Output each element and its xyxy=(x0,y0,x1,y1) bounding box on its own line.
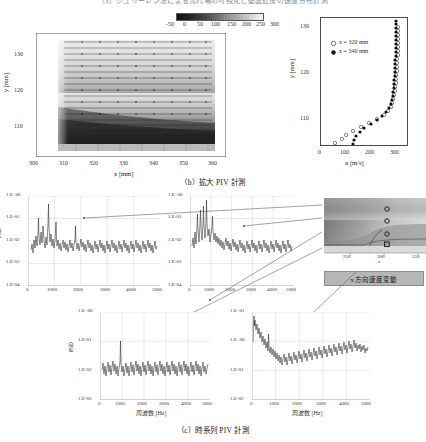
profile-xlabel: u [m/s] xyxy=(345,159,364,166)
piv-xtick: 300 xyxy=(29,160,38,166)
schlieren-photo-canvas xyxy=(324,198,426,264)
psd-xtick: 3000 xyxy=(159,401,169,406)
velocity-profile-plot: x = 320 mm x = 340 mm 130 120 110 0 100 … xyxy=(320,17,408,146)
psd-top-left-canvas xyxy=(28,196,160,286)
psd-xtick: 1000 xyxy=(269,401,279,406)
psd-ytick: 1.E-02 xyxy=(6,237,19,242)
schlieren-photo: 250 300 350 x xyxy=(324,198,426,264)
psd-xtick: 4000 xyxy=(181,401,191,406)
profile-ytick: 110 xyxy=(300,115,309,121)
psd-ytick: 1.E+00 xyxy=(168,192,183,197)
psd-xtick: 5000 xyxy=(152,287,162,292)
piv-ylabel: y [mm] xyxy=(2,73,9,92)
psd-bottom-right-canvas xyxy=(252,312,370,400)
profile-legend: x = 320 mm x = 340 mm xyxy=(330,39,392,59)
psd-xtick: 3000 xyxy=(316,401,326,406)
psd-xlabel: 周波数 [Hz] xyxy=(292,408,323,417)
psd-xtick: 2000 xyxy=(137,401,147,406)
photo-xtick: 250 xyxy=(343,254,351,259)
psd-ytick: 1.E+00 xyxy=(230,337,245,342)
legend-label-1: x = 320 mm xyxy=(339,39,368,45)
figure-root: （a）シュリーレン法による流れ場の可視化と壁面近傍の速度分布計測 -50 0 5… xyxy=(0,0,426,442)
psd-top-right: 1.E+00 1.E-01 1.E-02 1.E-03 1.E-04 0 100… xyxy=(190,196,294,286)
psd-xtick: 3000 xyxy=(100,287,110,292)
profile-ytick: 120 xyxy=(300,69,309,75)
psd-bottom-left: 1.E+00 1.E-01 1.E-02 1.E-03 0 1000 2000 … xyxy=(100,312,210,400)
psd-ylabel: PSD xyxy=(0,228,2,238)
legend-filled-circle-icon xyxy=(330,49,337,56)
colorbar-tick: 250 xyxy=(256,21,265,27)
colorbar-tick: 300 xyxy=(270,21,279,27)
psd-ytick: 1.E-03 xyxy=(6,259,19,264)
psd-ytick: 1.E-03 xyxy=(168,259,181,264)
piv-ytick: 130 xyxy=(14,51,23,57)
psd-xlabel: 周波数 [Hz] xyxy=(136,408,167,417)
profile-points xyxy=(320,17,408,146)
psd-xtick: 0 xyxy=(26,287,29,292)
psd-ytick: 1.E-02 xyxy=(168,237,181,242)
colorbar-tick: -50 xyxy=(166,21,174,27)
psd-ytick: 1.E-01 xyxy=(168,214,181,219)
legend-open-circle-icon xyxy=(330,40,337,47)
psd-ytick: 1.E-01 xyxy=(230,367,243,372)
colorbar-tick: 50 xyxy=(197,21,203,27)
psd-ytick: 1.E-04 xyxy=(6,282,19,287)
psd-ytick: 1.E-03 xyxy=(78,396,91,401)
psd-top-right-canvas xyxy=(190,196,294,286)
psd-top-left: 1.E+00 1.E-01 1.E-02 1.E-03 1.E-04 0 100… xyxy=(28,196,160,286)
psd-xtick: 1000 xyxy=(204,287,214,292)
psd-ytick: 1.E-01 xyxy=(78,337,91,342)
psd-xtick: 0 xyxy=(250,401,253,406)
annotation-box-label: x 方向速度変動 xyxy=(351,274,398,284)
piv-xtick: 360 xyxy=(208,160,217,166)
piv-ytick: 120 xyxy=(14,87,23,93)
psd-ytick: 1.E+00 xyxy=(6,192,21,197)
psd-xtick: 1000 xyxy=(47,287,57,292)
psd-xtick: 5000 xyxy=(286,287,296,292)
psd-xtick: 1000 xyxy=(115,401,125,406)
psd-ytick: 1.E+00 xyxy=(78,308,93,313)
profile-xtick: 0 xyxy=(318,149,321,155)
psd-xtick: 0 xyxy=(188,287,191,292)
colorbar-tick: 100 xyxy=(211,21,220,27)
caption-b: （b）拡大 PIV 計測 xyxy=(0,176,426,187)
psd-xtick: 3000 xyxy=(246,287,256,292)
psd-xtick: 4000 xyxy=(267,287,277,292)
psd-xtick: 2000 xyxy=(225,287,235,292)
colorbar-ticklabels: -50 0 50 100 150 200 250 300 xyxy=(166,21,278,31)
piv-xtick: 310 xyxy=(59,160,68,166)
psd-xtick: 0 xyxy=(98,401,101,406)
psd-xtick: 2000 xyxy=(292,401,302,406)
profile-ylabel: y [mm] xyxy=(288,59,295,78)
piv-ytick: 110 xyxy=(14,123,23,129)
psd-xtick: 4000 xyxy=(126,287,136,292)
annotation-box: x 方向速度変動 xyxy=(324,271,424,286)
photo-xlabel: x xyxy=(378,259,380,264)
psd-xtick: 2000 xyxy=(73,287,83,292)
caption-c: （c）時系列 PIV 計測 xyxy=(0,423,426,435)
legend-label-2: x = 340 mm xyxy=(339,48,368,54)
top-caption-clipped: （a）シュリーレン法による流れ場の可視化と壁面近傍の速度分布計測 xyxy=(0,0,426,7)
colorbar-tick: 150 xyxy=(227,21,236,27)
piv-field xyxy=(36,33,226,157)
piv-xtick: 340 xyxy=(149,160,158,166)
profile-xtick: 200 xyxy=(365,149,374,155)
psd-ytick: 1.E-02 xyxy=(230,396,243,401)
psd-bottom-right: 1.E+01 1.E+00 1.E-01 1.E-02 0 1000 2000 … xyxy=(252,312,370,400)
psd-ytick: 1.E-04 xyxy=(168,282,181,287)
piv-contour-plot: 130 120 110 300 310 320 330 340 350 360 … xyxy=(36,33,226,157)
photo-xtick: 350 xyxy=(412,254,420,259)
colorbar-tick: 0 xyxy=(183,21,186,27)
psd-bottom-left-canvas xyxy=(100,312,210,400)
psd-xtick: 4000 xyxy=(339,401,349,406)
colorbar-tick: 200 xyxy=(242,21,251,27)
profile-ytick: 130 xyxy=(300,23,309,29)
profile-xtick: 100 xyxy=(340,149,349,155)
psd-ylabel: PSD xyxy=(68,342,74,352)
psd-ytick: 1.E-02 xyxy=(78,367,91,372)
psd-ytick: 1.E-01 xyxy=(6,214,19,219)
psd-xtick: 5000 xyxy=(202,401,212,406)
psd-xtick: 5000 xyxy=(361,401,371,406)
piv-xtick: 320 xyxy=(89,160,98,166)
profile-xtick: 300 xyxy=(390,149,399,155)
